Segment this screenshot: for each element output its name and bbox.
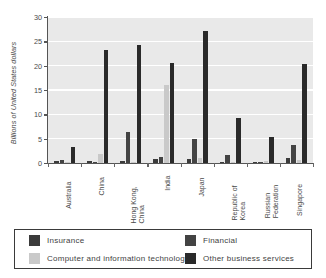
bar [137,45,141,163]
bar-group [147,17,180,163]
bar [170,63,174,163]
bar [291,145,295,163]
legend-swatch [185,235,196,246]
x-tick-mark [247,163,248,167]
y-axis-title: Billions of United States dollars [6,18,20,168]
bar-group [114,17,147,163]
bar [203,31,207,163]
bar [264,161,268,163]
x-category-label-text: India [164,176,172,191]
bar [104,50,108,163]
x-category-label-text: Australia [65,182,73,209]
x-tick-mark [313,163,314,167]
plot-background [48,17,313,163]
bar [126,132,130,163]
bar [253,162,257,163]
y-tick-label: 20 [20,61,42,70]
y-tick-label: 0 [20,159,42,168]
bar [225,155,229,163]
bar [258,162,262,163]
y-tick-label: 10 [20,110,42,119]
x-category-label-text: Hong Kong, China [131,186,146,223]
legend-item[interactable]: Insurance [29,235,84,246]
legend-label: Other business services [203,254,294,263]
bar-group [48,17,81,163]
bar [93,162,97,163]
chart-legend: InsuranceFinancial Computer and informat… [14,229,312,269]
bar [236,118,240,163]
x-tick-mark [181,163,182,167]
x-category-label-text: Singapore [296,184,304,216]
legend-label: Financial [203,236,237,245]
bar [71,147,75,163]
legend-row-2: Computer and information technologyOther… [15,250,311,269]
y-tick-label: 5 [20,134,42,143]
bar [65,162,69,163]
x-tick-mark [214,163,215,167]
x-tick-mark [114,163,115,167]
bar [220,162,224,163]
x-tick-mark [147,163,148,167]
x-category-label-text: Russian Federation [263,185,278,218]
legend-swatch [185,253,196,264]
y-tick-label: 25 [20,37,42,46]
y-tick-label: 30 [20,13,42,22]
bar [98,154,102,163]
x-tick-mark [48,163,49,167]
bar [192,139,196,163]
bar [286,158,290,163]
legend-item[interactable]: Financial [185,235,237,246]
chart-figure: Billions of United States dollars 051015… [0,0,326,278]
bar [297,160,301,163]
bar [302,64,306,163]
bar-group [247,17,280,163]
bar [131,162,135,163]
legend-item[interactable]: Other business services [185,253,294,264]
bar-group [81,17,114,163]
legend-label: Insurance [47,236,84,245]
bar-group [181,17,214,163]
bar [164,85,168,163]
bar [269,137,273,163]
bar-group [280,17,313,163]
bar [159,157,163,163]
legend-label: Computer and information technology [47,254,189,263]
x-category-label-text: Republic of Korea [230,186,245,221]
y-axis-title-text: Billions of United States dollars [9,42,18,144]
bar [198,158,202,163]
bar [153,159,157,163]
legend-swatch [29,253,40,264]
legend-item[interactable]: Computer and information technology [29,253,189,264]
y-tick-label: 15 [20,86,42,95]
x-tick-mark [280,163,281,167]
bar-group [214,17,247,163]
legend-row-1: InsuranceFinancial [15,232,311,251]
bar [187,159,191,163]
x-category-label: Singapore [268,168,324,176]
bar [60,160,64,163]
bar [87,161,91,163]
bar [54,161,58,163]
bar [120,161,124,163]
legend-swatch [29,235,40,246]
bar [231,162,235,163]
x-tick-mark [81,163,82,167]
plot-area [48,17,313,163]
